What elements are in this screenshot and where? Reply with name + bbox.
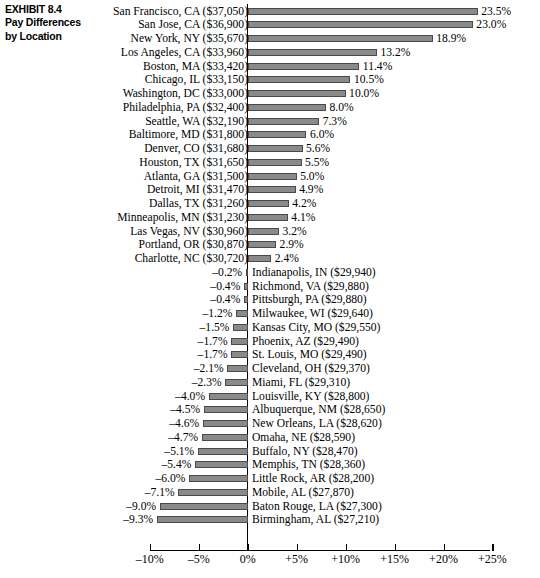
value-label: 3.2% xyxy=(283,225,307,239)
bar-row: Baton Rouge, LA ($27,300)–9.0% xyxy=(0,500,540,514)
category-label: Boston, MA ($33,420) xyxy=(143,60,248,74)
x-axis-tick xyxy=(492,544,493,551)
value-label: 11.4% xyxy=(363,60,393,74)
bar-row: Richmond, VA ($29,880)–0.4% xyxy=(0,280,540,294)
bar-row: Boston, MA ($33,420)11.4% xyxy=(0,60,540,74)
bar-row: Miami, FL ($29,310)–2.3% xyxy=(0,376,540,390)
value-label: –9.3% xyxy=(123,513,153,527)
bar xyxy=(248,118,319,125)
value-label: 8.0% xyxy=(330,101,354,115)
category-label: San Jose, CA ($36,900) xyxy=(138,18,248,32)
bar xyxy=(248,131,307,138)
bar-row: Little Rock, AR ($28,200)–6.0% xyxy=(0,472,540,486)
bar xyxy=(195,461,248,468)
bar-row: Detroit, MI ($31,470)4.9% xyxy=(0,183,540,197)
bar xyxy=(198,448,248,455)
bar-row: Chicago, IL ($33,150)10.5% xyxy=(0,73,540,87)
bar xyxy=(248,76,351,83)
x-axis-tick xyxy=(444,544,445,551)
value-label: –1.2% xyxy=(203,307,233,321)
value-label: –1.7% xyxy=(198,348,228,362)
bar xyxy=(202,434,248,441)
value-label: –0.2% xyxy=(212,266,242,280)
bar-row: Omaha, NE ($28,590)–4.7% xyxy=(0,431,540,445)
bar xyxy=(227,365,248,372)
bar xyxy=(248,63,360,70)
category-label: Little Rock, AR ($28,200) xyxy=(252,472,374,486)
value-label: –2.3% xyxy=(192,376,222,390)
category-label: Mobile, AL ($27,870) xyxy=(252,486,354,500)
bar-row: Minneapolis, MN ($31,230)4.1% xyxy=(0,211,540,225)
value-label: 10.0% xyxy=(349,87,379,101)
value-label: –6.0% xyxy=(156,472,186,486)
value-label: 4.2% xyxy=(292,197,316,211)
bar-row: Seattle, WA ($32,190)7.3% xyxy=(0,115,540,129)
value-label: –1.7% xyxy=(198,335,228,349)
bar-row: Buffalo, NY ($28,470)–5.1% xyxy=(0,445,540,459)
value-label: –4.7% xyxy=(168,431,198,445)
value-label: –9.0% xyxy=(126,500,156,514)
bar-row: Houston, TX ($31,650)5.5% xyxy=(0,156,540,170)
bar xyxy=(225,379,248,386)
category-label: New York, NY ($35,670) xyxy=(131,32,248,46)
value-label: 4.9% xyxy=(299,183,323,197)
category-label: Buffalo, NY ($28,470) xyxy=(252,445,358,459)
bar xyxy=(203,420,248,427)
bar xyxy=(248,21,473,28)
bar-row: Portland, OR ($30,870)2.9% xyxy=(0,238,540,252)
bar-row: Pittsburgh, PA ($29,880)–0.4% xyxy=(0,293,540,307)
bar xyxy=(248,200,289,207)
category-label: St. Louis, MO ($29,490) xyxy=(252,348,367,362)
value-label: –0.4% xyxy=(210,280,240,294)
bar xyxy=(231,351,248,358)
category-label: Philadelphia, PA ($32,400) xyxy=(123,101,248,115)
bar-chart: San Francisco, CA ($37,050)23.5%San Jose… xyxy=(0,0,540,578)
value-label: –0.4% xyxy=(210,293,240,307)
value-label: –4.6% xyxy=(169,417,199,431)
bar xyxy=(248,159,302,166)
bar xyxy=(248,35,433,42)
value-label: 2.9% xyxy=(280,238,304,252)
category-label: Baltimore, MD ($31,800) xyxy=(129,128,248,142)
bar xyxy=(248,104,326,111)
bar-row: Philadelphia, PA ($32,400)8.0% xyxy=(0,101,540,115)
x-axis-tick xyxy=(248,544,249,551)
value-label: –5.4% xyxy=(161,458,191,472)
bar-row: Birmingham, AL ($27,210)–9.3% xyxy=(0,513,540,527)
value-label: 7.3% xyxy=(323,115,347,129)
bar-row: Indianapolis, IN ($29,940)–0.2% xyxy=(0,266,540,280)
category-label: Seattle, WA ($32,190) xyxy=(145,115,248,129)
bar-row: Denver, CO ($31,680)5.6% xyxy=(0,142,540,156)
category-label: Cleveland, OH ($29,370) xyxy=(252,362,370,376)
bar-row: New Orleans, LA ($28,620)–4.6% xyxy=(0,417,540,431)
value-label: 5.5% xyxy=(305,156,329,170)
bar xyxy=(204,406,248,413)
bar-row: Milwaukee, WI ($29,640)–1.2% xyxy=(0,307,540,321)
bar-row: Louisville, KY ($28,800)–4.0% xyxy=(0,390,540,404)
category-label: Baton Rouge, LA ($27,300) xyxy=(252,500,382,514)
bar xyxy=(244,283,248,290)
category-label: Detroit, MI ($31,470) xyxy=(147,183,248,197)
bar xyxy=(248,214,288,221)
value-label: 2.4% xyxy=(275,252,299,266)
category-label: Denver, CO ($31,680) xyxy=(144,142,248,156)
value-label: 5.6% xyxy=(306,142,330,156)
bar xyxy=(178,489,248,496)
bar xyxy=(209,393,248,400)
category-label: Kansas City, MO ($29,550) xyxy=(252,321,380,335)
bar xyxy=(248,8,478,15)
category-label: Indianapolis, IN ($29,940) xyxy=(252,266,376,280)
category-label: Birmingham, AL ($27,210) xyxy=(252,513,379,527)
bar xyxy=(248,173,297,180)
bar xyxy=(248,49,377,56)
value-label: 23.0% xyxy=(476,18,506,32)
value-label: –7.1% xyxy=(145,486,175,500)
value-label: 5.0% xyxy=(300,170,324,184)
category-label: Omaha, NE ($28,590) xyxy=(252,431,355,445)
x-axis-tick xyxy=(297,544,298,551)
bar xyxy=(248,255,271,262)
category-label: Pittsburgh, PA ($29,880) xyxy=(252,293,367,307)
category-label: Milwaukee, WI ($29,640) xyxy=(252,307,373,321)
bar-row: Memphis, TN ($28,360)–5.4% xyxy=(0,458,540,472)
value-label: 10.5% xyxy=(354,73,384,87)
